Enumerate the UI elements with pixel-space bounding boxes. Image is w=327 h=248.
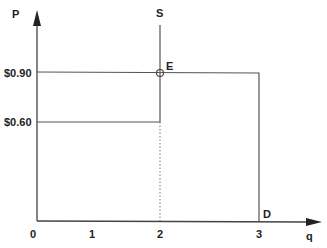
demand-curve [37, 72, 259, 221]
x-axis-arrow-icon [306, 218, 322, 226]
supply-label: S [156, 7, 163, 19]
y-tick-high: $0.90 [4, 67, 32, 79]
x-axis [37, 221, 308, 222]
x-tick-2: 2 [157, 228, 163, 240]
x-tick-1: 1 [89, 228, 95, 240]
supply-curve [37, 25, 160, 122]
chart: P q $0.90 $0.60 0 1 2 3 S D E [0, 0, 327, 248]
equilibrium-label: E [166, 60, 173, 72]
y-axis-label: P [12, 8, 19, 20]
demand-label: D [263, 208, 271, 220]
x-axis-label: q [306, 230, 313, 242]
chart-svg: P q $0.90 $0.60 0 1 2 3 S D E [0, 0, 327, 248]
y-axis-arrow-icon [33, 10, 41, 26]
x-tick-0: 0 [30, 228, 36, 240]
x-tick-3: 3 [256, 228, 262, 240]
y-tick-low: $0.60 [4, 116, 32, 128]
